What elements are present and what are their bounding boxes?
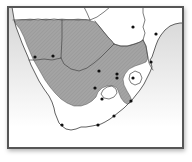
- locality-dot: [131, 76, 134, 79]
- locality-dot: [149, 60, 152, 63]
- locality-dot: [129, 99, 132, 102]
- locality-dot: [131, 25, 134, 28]
- locality-dot: [112, 114, 115, 117]
- locality-dot: [115, 76, 118, 79]
- framed-map: [8, 7, 183, 148]
- locality-dot: [100, 97, 103, 100]
- swaziland-outline: [129, 71, 142, 85]
- locality-dot: [60, 123, 63, 126]
- distribution-map-figure: [0, 0, 192, 162]
- locality-dot: [115, 72, 118, 75]
- locality-dot: [97, 69, 100, 72]
- locality-dot: [96, 123, 99, 126]
- locality-dot: [154, 32, 157, 35]
- locality-dot: [33, 55, 36, 58]
- locality-dot: [93, 86, 96, 89]
- locality-dot: [51, 54, 54, 57]
